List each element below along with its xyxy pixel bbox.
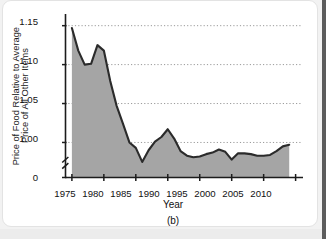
figure-page: Price of Food Relative to Average Price … [0, 0, 326, 239]
area-chart-plot [0, 0, 326, 239]
